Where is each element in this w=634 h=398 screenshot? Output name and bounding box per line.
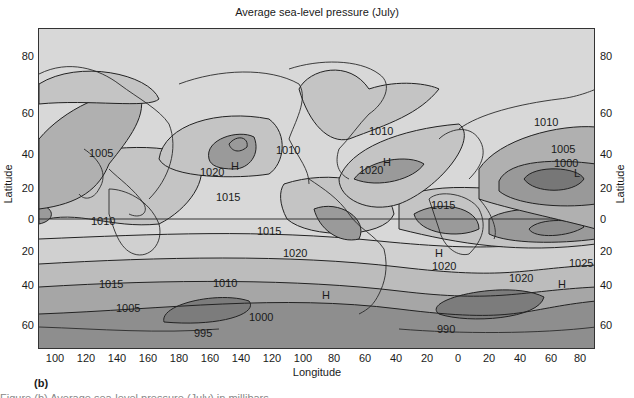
xtick-1: 120 xyxy=(71,352,101,364)
xtick-4: 180 xyxy=(164,352,194,364)
label-1015-aus: 1015 xyxy=(99,278,123,290)
xtick-8: 100 xyxy=(288,352,318,364)
xtick-2: 140 xyxy=(102,352,132,364)
xtick-11: 40 xyxy=(381,352,411,364)
label-1020-atl: 1020 xyxy=(359,164,383,176)
high-spac: H xyxy=(322,289,330,301)
ytick-left-40: 40 xyxy=(10,148,34,160)
chart-title: Average sea-level pressure (July) xyxy=(0,6,634,18)
high-sind: H xyxy=(558,278,566,290)
label-1010-s: 1010 xyxy=(213,277,237,289)
pressure-map-plot: 1005 1020 1015 1010 1010 1015 1020 1010 … xyxy=(38,28,595,349)
label-1015-spac: 1015 xyxy=(257,225,281,237)
label-1020-ind: 1020 xyxy=(509,272,533,284)
ytick-right-s40: 40 xyxy=(600,279,624,291)
xtick-9: 80 xyxy=(319,352,349,364)
label-1010-eq: 1010 xyxy=(91,215,115,227)
xtick-17: 80 xyxy=(565,352,595,364)
label-1010-atl: 1010 xyxy=(369,125,393,137)
ytick-left-s60: 60 xyxy=(10,319,34,331)
high-npac: H xyxy=(231,160,239,172)
label-1005-asia: 1005 xyxy=(89,147,113,159)
ytick-left-80: 80 xyxy=(10,50,34,62)
label-1020-npac: 1020 xyxy=(200,166,224,178)
label-1015-npac: 1015 xyxy=(216,191,240,203)
ytick-right-80: 80 xyxy=(600,50,624,62)
high-natl: H xyxy=(383,156,391,168)
label-1020-satl: 1020 xyxy=(432,260,456,272)
label-995: 995 xyxy=(194,327,212,339)
low-asia: L xyxy=(574,167,580,179)
label-1005-asia2: 1005 xyxy=(551,143,575,155)
ytick-left-60: 60 xyxy=(10,107,34,119)
y-axis-label-right: Latitude xyxy=(614,164,626,203)
xtick-15: 40 xyxy=(505,352,535,364)
panel-label: (b) xyxy=(34,377,48,389)
label-1005-s: 1005 xyxy=(116,302,140,314)
ytick-left-20: 20 xyxy=(10,182,34,194)
contour-map: 1005 1020 1015 1010 1010 1015 1020 1010 … xyxy=(39,29,595,349)
xtick-10: 60 xyxy=(350,352,380,364)
high-satl: H xyxy=(435,247,443,259)
ytick-left-s40: 40 xyxy=(10,279,34,291)
ytick-right-0: 0 xyxy=(600,213,624,225)
figure-caption-fragment: Figure (b) Average sea-level pressure (J… xyxy=(0,392,634,398)
label-1025: 1025 xyxy=(569,257,593,269)
label-1010-eur: 1010 xyxy=(534,116,558,128)
y-axis-label-left: Latitude xyxy=(2,164,14,203)
label-1010-na: 1010 xyxy=(276,144,300,156)
xtick-14: 20 xyxy=(474,352,504,364)
label-1015-atl: 1015 xyxy=(431,199,455,211)
ytick-right-s20: 20 xyxy=(600,245,624,257)
label-1000-s: 1000 xyxy=(249,311,273,323)
ytick-left-s20: 20 xyxy=(10,245,34,257)
ytick-right-60: 60 xyxy=(600,107,624,119)
ytick-left-0: 0 xyxy=(10,213,34,225)
ytick-right-40: 40 xyxy=(600,148,624,160)
label-990: 990 xyxy=(437,323,455,335)
label-1020-spac: 1020 xyxy=(283,247,307,259)
xtick-6: 140 xyxy=(226,352,256,364)
ytick-right-s60: 60 xyxy=(600,319,624,331)
xtick-13: 0 xyxy=(443,352,473,364)
xtick-0: 100 xyxy=(40,352,70,364)
xtick-3: 160 xyxy=(133,352,163,364)
xtick-5: 160 xyxy=(195,352,225,364)
xtick-7: 120 xyxy=(257,352,287,364)
xtick-16: 60 xyxy=(536,352,566,364)
xtick-12: 20 xyxy=(412,352,442,364)
x-axis-label: Longitude xyxy=(0,366,634,378)
